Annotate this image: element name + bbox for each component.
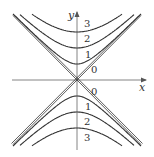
contour-plot: x y 3 2 1 0 0 1 2 3 bbox=[0, 0, 154, 157]
y-axis-arrow-icon bbox=[75, 11, 80, 17]
level-label-lower-1: 1 bbox=[85, 101, 91, 112]
level-label-upper-0: 0 bbox=[91, 64, 97, 75]
level-label-lower-3: 3 bbox=[84, 132, 90, 143]
level-label-upper-3: 3 bbox=[84, 18, 90, 29]
contour-diagram: x y 3 2 1 0 0 1 2 3 bbox=[0, 0, 154, 157]
level-label-lower-0: 0 bbox=[91, 86, 97, 97]
x-axis-label: x bbox=[139, 81, 146, 94]
y-axis-label: y bbox=[67, 9, 75, 22]
level-label-lower-2: 2 bbox=[84, 116, 90, 127]
level-label-upper-1: 1 bbox=[85, 49, 91, 60]
level-label-upper-2: 2 bbox=[84, 33, 90, 44]
